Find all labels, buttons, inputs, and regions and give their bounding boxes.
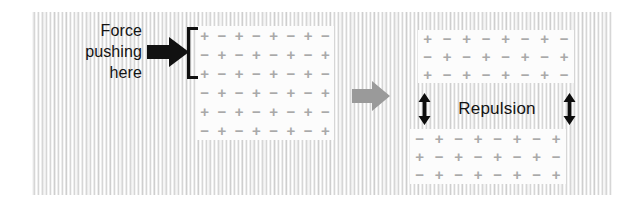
cation-plus-symbol: + [269,66,278,81]
lattice-shifted-lower: −+−+−+−++−+−+−+−−+−+−+−+ [410,129,566,184]
anion-minus-symbol: − [269,123,278,138]
grey-right-arrow-icon [352,81,390,111]
anion-minus-symbol: − [521,31,530,46]
anion-minus-symbol: − [286,104,295,119]
cation-plus-symbol: + [435,131,444,146]
repulsion-label: Repulsion [458,99,535,119]
force-caption-line-1: Force [56,20,142,41]
repulsion-annotation: Repulsion [418,92,576,126]
cation-plus-symbol: + [540,31,549,46]
cation-plus-symbol: + [532,149,541,164]
anion-minus-symbol: − [521,67,530,82]
cation-plus-symbol: + [501,31,510,46]
anion-minus-symbol: − [321,104,330,119]
cation-plus-symbol: + [286,85,295,100]
cation-plus-symbol: + [493,149,502,164]
anion-minus-symbol: − [415,131,424,146]
cation-plus-symbol: + [286,47,295,62]
lattice-shifted-upper: +−+−+−+−−+−+−+−++−+−+−+− [418,30,574,83]
cation-plus-symbol: + [200,104,209,119]
cation-plus-symbol: + [540,67,549,82]
cation-plus-symbol: + [217,123,226,138]
ionic-lattice-diagram: Force pushing here +−+−+−+−−+−+−+−++−+−+… [0,0,641,208]
anion-minus-symbol: − [454,167,463,182]
anion-minus-symbol: − [415,167,424,182]
cation-plus-symbol: + [252,47,261,62]
cation-plus-symbol: + [462,31,471,46]
cation-plus-symbol: + [252,85,261,100]
cation-plus-symbol: + [423,67,432,82]
cation-plus-symbol: + [217,85,226,100]
anion-minus-symbol: − [540,49,549,64]
cation-plus-symbol: + [269,28,278,43]
anion-minus-symbol: − [435,149,444,164]
anion-minus-symbol: − [304,47,313,62]
cation-plus-symbol: + [443,49,452,64]
anion-minus-symbol: − [482,67,491,82]
anion-minus-symbol: − [560,31,569,46]
cation-plus-symbol: + [462,67,471,82]
anion-minus-symbol: − [532,131,541,146]
cation-plus-symbol: + [200,28,209,43]
anion-minus-symbol: − [532,167,541,182]
anion-minus-symbol: − [321,66,330,81]
cation-plus-symbol: + [269,104,278,119]
cation-plus-symbol: + [423,31,432,46]
anion-minus-symbol: − [200,47,209,62]
cation-plus-symbol: + [501,67,510,82]
anion-minus-symbol: − [501,49,510,64]
anion-minus-symbol: − [552,149,561,164]
striped-paper-background: Force pushing here +−+−+−+−−+−+−+−++−+−+… [32,12,612,195]
cation-plus-symbol: + [560,49,569,64]
cation-plus-symbol: + [321,123,330,138]
cation-plus-symbol: + [321,47,330,62]
anion-minus-symbol: − [423,49,432,64]
anion-minus-symbol: − [560,67,569,82]
cation-plus-symbol: + [513,131,522,146]
anion-minus-symbol: − [217,104,226,119]
cation-plus-symbol: + [286,123,295,138]
anion-minus-symbol: − [482,31,491,46]
anion-minus-symbol: − [235,85,244,100]
anion-minus-symbol: − [217,28,226,43]
anion-minus-symbol: − [286,66,295,81]
force-arrow-icon [147,36,189,68]
anion-minus-symbol: − [235,47,244,62]
cation-plus-symbol: + [435,167,444,182]
force-caption: Force pushing here [56,20,142,83]
cation-plus-symbol: + [321,85,330,100]
anion-minus-symbol: − [474,149,483,164]
cation-plus-symbol: + [552,131,561,146]
anion-minus-symbol: − [252,104,261,119]
anion-minus-symbol: − [493,131,502,146]
anion-minus-symbol: − [252,66,261,81]
cation-plus-symbol: + [200,66,209,81]
cation-plus-symbol: + [521,49,530,64]
double-headed-vertical-arrow-icon-right [563,93,576,125]
cation-plus-symbol: + [482,49,491,64]
cation-plus-symbol: + [304,66,313,81]
cation-plus-symbol: + [454,149,463,164]
cation-plus-symbol: + [415,149,424,164]
anion-minus-symbol: − [269,47,278,62]
double-headed-vertical-arrow-icon-left [418,93,431,125]
anion-minus-symbol: − [217,66,226,81]
anion-minus-symbol: − [321,28,330,43]
anion-minus-symbol: − [269,85,278,100]
cation-plus-symbol: + [474,167,483,182]
anion-minus-symbol: − [513,149,522,164]
anion-minus-symbol: − [200,123,209,138]
anion-minus-symbol: − [304,85,313,100]
cation-plus-symbol: + [252,123,261,138]
square-bracket-icon [185,27,198,79]
anion-minus-symbol: − [235,123,244,138]
cation-plus-symbol: + [217,47,226,62]
anion-minus-symbol: − [493,167,502,182]
anion-minus-symbol: − [286,28,295,43]
cation-plus-symbol: + [304,104,313,119]
cation-plus-symbol: + [474,131,483,146]
cation-plus-symbol: + [235,28,244,43]
force-caption-line-2: pushing [56,41,142,62]
cation-plus-symbol: + [552,167,561,182]
cation-plus-symbol: + [235,104,244,119]
